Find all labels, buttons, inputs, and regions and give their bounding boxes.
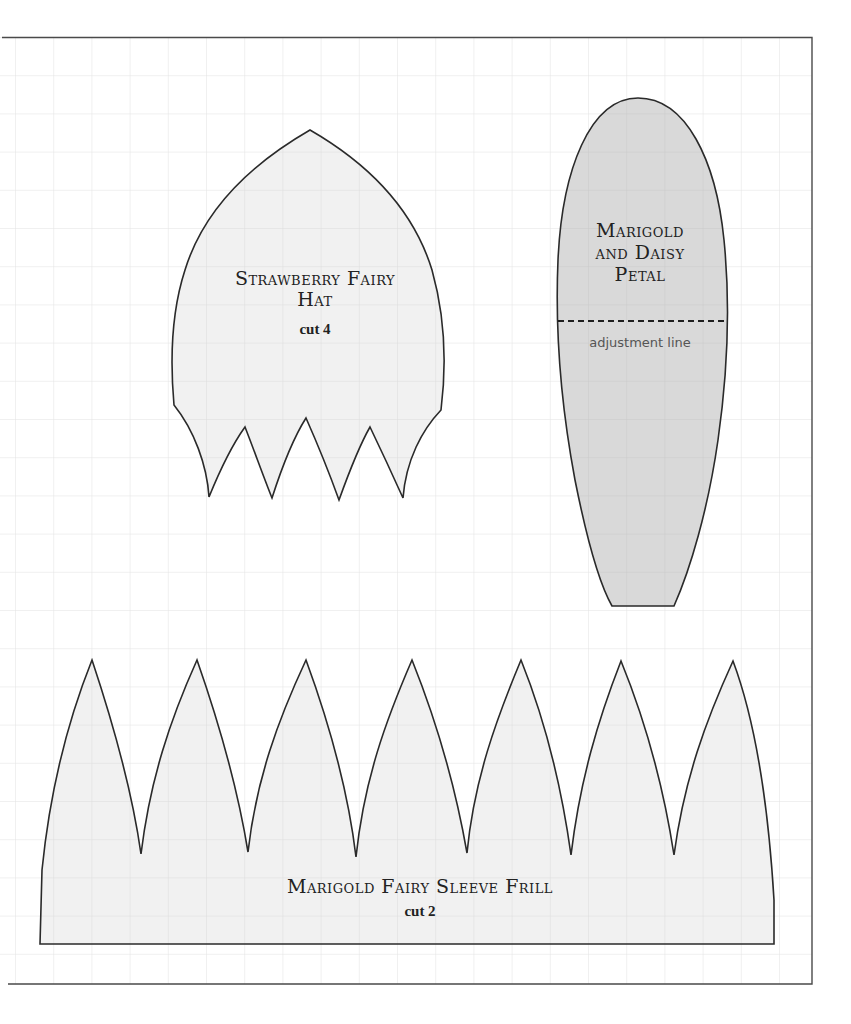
- pattern-canvas: [0, 0, 851, 1024]
- hat-title-line2: Hat: [200, 289, 430, 310]
- petal-title: Marigold and Daisy Petal: [560, 220, 720, 286]
- petal-title-line1: Marigold: [560, 220, 720, 242]
- adjustment-line-label: adjustment line: [570, 335, 710, 350]
- petal-title-line2: and Daisy: [560, 242, 720, 264]
- frill-cut-instruction: cut 2: [370, 903, 470, 920]
- frill-title: Marigold Fairy Sleeve Frill: [210, 876, 630, 897]
- hat-title-line1: Strawberry Fairy: [200, 268, 430, 289]
- pattern-sheet: Strawberry Fairy Hat cut 4 Marigold and …: [0, 0, 851, 1024]
- petal-title-line3: Petal: [560, 264, 720, 286]
- hat-title: Strawberry Fairy Hat: [200, 268, 430, 310]
- hat-cut-instruction: cut 4: [270, 321, 360, 338]
